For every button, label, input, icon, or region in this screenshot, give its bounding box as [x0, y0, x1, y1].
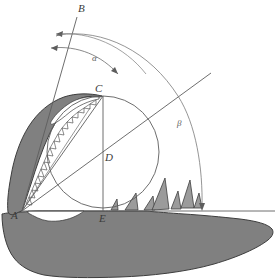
ray-a-to-b — [22, 17, 77, 211]
alpha-arrow-start — [51, 45, 58, 51]
alpha-arc-upper — [56, 34, 146, 74]
tooth-5 — [171, 191, 181, 209]
point-label-c: C — [95, 83, 102, 94]
diagram-canvas — [0, 0, 275, 280]
alpha-arc — [51, 48, 118, 74]
upper-jaw-shape — [8, 94, 102, 215]
point-label-d: D — [105, 152, 113, 163]
angle-label-alpha: α — [92, 54, 97, 63]
ray-a-upper-right — [22, 73, 211, 211]
tooth-1 — [111, 199, 118, 210]
jaw-geometry-figure: B C D E A α β — [0, 0, 275, 280]
point-label-a: A — [11, 210, 18, 221]
point-label-b: B — [78, 3, 85, 14]
point-label-e: E — [99, 213, 106, 224]
tooth-6 — [181, 180, 194, 208]
tooth-4 — [152, 178, 169, 210]
lower-jaw-teeth — [111, 178, 202, 210]
angle-label-beta: β — [177, 119, 181, 128]
tooth-2 — [125, 193, 138, 210]
lower-jaw-shape — [2, 211, 273, 278]
